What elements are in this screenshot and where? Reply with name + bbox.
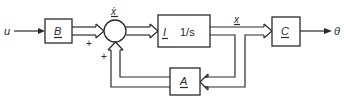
block-I-label: I: [163, 26, 166, 38]
block-integrator: I 1/s: [158, 15, 210, 47]
block-B: B: [45, 19, 72, 43]
block-A-label: A: [179, 75, 187, 87]
block-I-transfer: 1/s: [180, 26, 195, 38]
input-label-u: u: [4, 25, 10, 37]
block-diagram: u B + ẋ I 1/s: [0, 0, 344, 99]
state-label: x: [233, 14, 240, 25]
input-arrowhead-icon: [38, 28, 45, 34]
output-arrowhead-icon: [324, 28, 332, 34]
sum-sign-plus-left: +: [86, 38, 92, 49]
block-C: C: [272, 17, 300, 46]
vector-signal-I-to-C: [205, 24, 272, 87]
block-C-label: C: [281, 25, 289, 37]
vector-signal-sum-to-I: [126, 24, 158, 38]
vector-signal-A-to-sum: [108, 42, 170, 87]
state-derivative-label: ẋ: [110, 6, 117, 17]
vector-signal-B-to-sum: [72, 24, 104, 38]
block-A: A: [170, 68, 200, 95]
sum-sign-plus-bottom: +: [101, 51, 107, 62]
output-label-theta: θ: [334, 25, 340, 37]
block-B-label: B: [54, 25, 61, 37]
vector-signal-into-A: [200, 74, 208, 90]
summing-junction: [104, 20, 126, 42]
